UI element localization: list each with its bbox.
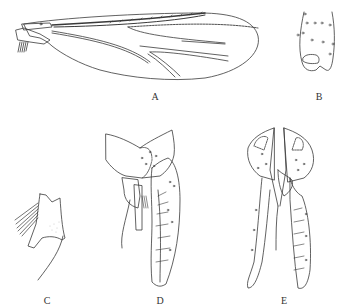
line-drawing [0, 0, 344, 308]
panel-d-hypopygium-dorsal-drawing [106, 130, 180, 286]
panel-label-e: E [281, 296, 287, 306]
panel-e-hypopygium-ventral-drawing [247, 128, 313, 288]
figure: A B C D E [0, 0, 344, 308]
panel-a-wing-drawing [16, 12, 258, 80]
panel-c-appendage-drawing [15, 194, 65, 280]
panel-b-segment-drawing [297, 12, 334, 71]
panel-label-c: C [44, 296, 51, 306]
panel-label-a: A [151, 92, 158, 102]
panel-label-b: B [316, 92, 323, 102]
panel-label-d: D [156, 296, 163, 306]
